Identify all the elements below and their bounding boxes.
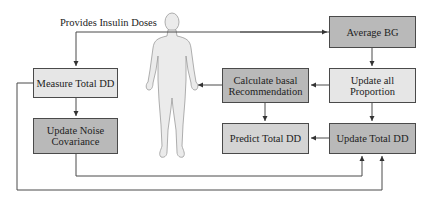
average-bg-label: Average BG <box>347 27 399 38</box>
measure-total-dd-label: Measure Total DD <box>37 78 115 89</box>
update-prop-line1: Update all <box>351 75 394 86</box>
calc-basal-line1: Calculate basal <box>234 75 298 86</box>
update-total-dd-label: Update Total DD <box>337 133 409 144</box>
predict-total-dd-box: Predict Total DD <box>222 123 309 154</box>
update-noise-line2: Covariance <box>52 136 100 147</box>
update-all-proportion-box: Update all Proportion <box>329 68 416 103</box>
average-bg-box: Average BG <box>329 16 416 48</box>
calculate-basal-recommendation-box: Calculate basal Recommendation <box>222 68 309 103</box>
calc-basal-line2: Recommendation <box>228 86 302 97</box>
update-total-dd-box: Update Total DD <box>329 123 416 154</box>
human-body-icon <box>146 13 198 157</box>
update-prop-line2: Proportion <box>350 86 395 97</box>
measure-total-dd-box: Measure Total DD <box>33 68 118 98</box>
update-noise-covariance-box: Update Noise Covariance <box>33 118 118 154</box>
predict-total-dd-label: Predict Total DD <box>230 133 301 144</box>
update-noise-line1: Update Noise <box>47 125 104 136</box>
provides-insulin-doses-label: Provides Insulin Doses <box>60 17 157 28</box>
